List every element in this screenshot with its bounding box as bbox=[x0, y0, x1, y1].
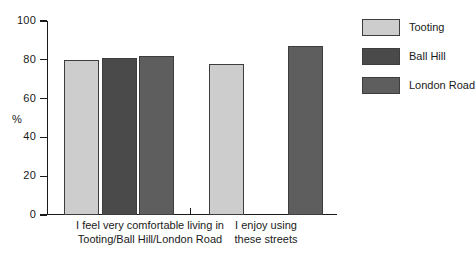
legend-label-ball-hill: Ball Hill bbox=[409, 51, 446, 62]
x-axis-label-group-1-line2: these streets bbox=[206, 233, 326, 247]
bar-london-road-group-1 bbox=[288, 46, 323, 215]
legend-item-london-road: London Road bbox=[362, 76, 475, 94]
y-axis-tick-label-60: 60 bbox=[2, 93, 36, 104]
bar-tooting-group-0 bbox=[64, 60, 99, 215]
y-axis-tick-label-20: 20 bbox=[2, 170, 36, 181]
bar-london-road-group-0 bbox=[139, 56, 174, 215]
plot-area bbox=[47, 21, 335, 215]
y-axis-tick-label-100: 100 bbox=[2, 15, 36, 26]
legend-swatch-ball-hill bbox=[362, 48, 400, 65]
x-axis-group-tick bbox=[190, 208, 191, 215]
y-axis-tick-40 bbox=[40, 137, 47, 138]
x-axis-label-group-1-line1: I enjoy using bbox=[206, 219, 326, 233]
y-axis-tick-100 bbox=[40, 20, 47, 21]
legend-swatch-london-road bbox=[362, 77, 400, 94]
bar-tooting-group-1 bbox=[209, 64, 244, 215]
x-axis-label-group-1: I enjoy using these streets bbox=[206, 219, 326, 246]
y-axis-tick-label-80: 80 bbox=[2, 54, 36, 65]
y-axis-tick-20 bbox=[40, 176, 47, 177]
legend-label-london-road: London Road bbox=[409, 80, 475, 91]
y-axis-tick-80 bbox=[40, 59, 47, 60]
legend-item-ball-hill: Ball Hill bbox=[362, 47, 475, 65]
y-axis-title: % bbox=[12, 114, 22, 125]
legend-item-tooting: Tooting bbox=[362, 18, 475, 36]
legend-label-tooting: Tooting bbox=[409, 22, 444, 33]
y-axis-tick-60 bbox=[40, 98, 47, 99]
legend-swatch-tooting bbox=[362, 19, 400, 36]
y-axis-tick-0 bbox=[40, 214, 47, 215]
chart-legend: Tooting Ball Hill London Road bbox=[362, 18, 475, 105]
y-axis-tick-label-40: 40 bbox=[2, 131, 36, 142]
bar-ball-hill-group-0 bbox=[102, 58, 137, 215]
y-axis-tick-label-0: 0 bbox=[2, 209, 36, 220]
